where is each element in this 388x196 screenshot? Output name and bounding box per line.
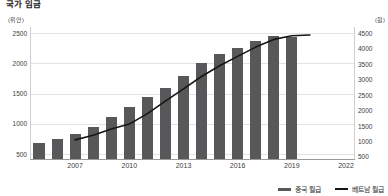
legend-item-china: 중국 월급 (278, 184, 321, 194)
x-axis-tick-label: 2019 (284, 162, 300, 169)
chart-root: 국가 임금 (위안) (원) 5001000150020002500 50010… (0, 0, 388, 196)
left-axis-tick-label: 1500 (13, 90, 27, 97)
bar (214, 54, 225, 160)
x-axis-tick-label: 2022 (338, 162, 354, 169)
bar (124, 107, 135, 160)
right-axis-tick-label: 4500 (358, 30, 372, 37)
bar (106, 117, 117, 160)
x-axis-tick-label: 2007 (67, 162, 83, 169)
bar (196, 63, 207, 160)
right-axis-tick-label: 1500 (358, 123, 372, 130)
legend-item-vietnam: 베트남 월급 (335, 184, 384, 194)
bar (52, 139, 63, 160)
left-axis-tick-label: 2500 (13, 30, 27, 37)
x-axis-line (30, 159, 355, 160)
bar (286, 37, 297, 160)
chart-legend: 중국 월급 베트남 월급 (278, 184, 384, 194)
bar (250, 41, 261, 160)
legend-label-vietnam: 베트남 월급 (352, 184, 384, 194)
right-axis-tick-label: 3500 (358, 61, 372, 68)
bar (160, 88, 171, 161)
right-axis-tick-label: 500 (358, 153, 369, 160)
left-axis-tick-label: 500 (16, 151, 27, 158)
right-axis-tick-label: 3000 (358, 76, 372, 83)
bar-series-china (30, 27, 355, 160)
right-axis-tick-label: 4000 (358, 45, 372, 52)
bar (178, 76, 189, 160)
legend-swatch-line-icon (335, 188, 348, 190)
left-axis-tick-label: 2000 (13, 60, 27, 67)
left-axis-tick-label: 1000 (13, 120, 27, 127)
legend-swatch-bar-icon (278, 188, 291, 191)
plot-area: 5001000150020002500 50010001500200025003… (30, 27, 355, 160)
right-axis-tick-label: 2000 (358, 107, 372, 114)
right-axis-unit-label: (원) (375, 15, 385, 24)
bar (33, 143, 44, 160)
bar (142, 97, 153, 160)
bar (232, 48, 243, 160)
page-title: 국가 임금 (6, 0, 41, 9)
bar (70, 134, 81, 160)
legend-label-china: 중국 월급 (295, 184, 321, 194)
x-axis-tick-label: 2013 (176, 162, 192, 169)
x-axis-tick-label: 2010 (122, 162, 138, 169)
right-axis-tick-label: 1000 (358, 138, 372, 145)
x-axis-tick-label: 2016 (230, 162, 246, 169)
bar (88, 127, 99, 160)
left-axis-unit-label: (위안) (8, 15, 24, 24)
bar (268, 36, 279, 160)
right-axis-tick-label: 2500 (358, 92, 372, 99)
